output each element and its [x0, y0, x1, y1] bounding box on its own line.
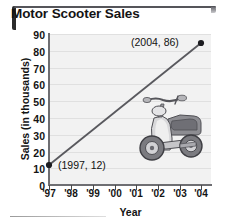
x-tick-label-04: '04 — [189, 189, 213, 199]
chart-plot: 90 80 70 60 50 40 30 20 10 0 '97 '98 '99… — [0, 0, 226, 224]
x-tick-label-01: '01 — [124, 189, 148, 199]
x-tick-label-97: '97 — [37, 189, 61, 199]
x-tick-label-02: '02 — [146, 189, 170, 199]
y-axis-line — [48, 33, 50, 186]
motor-scooter-illustration — [128, 88, 206, 162]
annotation-2004: (2004, 86) — [131, 36, 179, 48]
annotation-1997: (1997, 12) — [58, 159, 106, 171]
gridline-80 — [49, 51, 211, 52]
x-axis-line — [48, 184, 212, 186]
gridline-70 — [49, 68, 211, 69]
bottom-rule — [10, 216, 106, 217]
gridline-60 — [49, 84, 211, 85]
x-tick-label-99: '99 — [81, 189, 105, 199]
gridline-90 — [49, 34, 211, 35]
y-axis-title: Sales (in thousands) — [19, 34, 31, 184]
x-tick-label-98: '98 — [59, 189, 83, 199]
